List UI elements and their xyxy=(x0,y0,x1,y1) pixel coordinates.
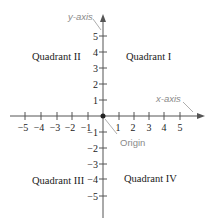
x-tick-label: 5 xyxy=(178,122,183,133)
y-tick-label: −4 xyxy=(87,174,98,185)
x-tick-label: 2 xyxy=(131,122,136,133)
quadrant-i-label: Quadrant I xyxy=(126,51,172,62)
quadrant-iii-label: Quadrant III xyxy=(32,175,85,186)
origin-label: Origin xyxy=(120,137,145,148)
quadrant-ii-label: Quadrant II xyxy=(32,51,81,62)
y-tick-label: −1 xyxy=(87,127,98,138)
x-tick-label: −2 xyxy=(65,122,76,133)
y-tick-label: 4 xyxy=(93,47,98,58)
coordinate-plane: −5 −4 −3 −2 −1 1 2 3 4 5 5 4 3 2 1 −1 −2… xyxy=(0,0,213,222)
x-tick-label: −4 xyxy=(34,122,45,133)
y-tick-label: −2 xyxy=(87,143,98,154)
quadrant-iv-label: Quadrant IV xyxy=(124,173,177,184)
y-axis-arrow-icon xyxy=(100,14,106,22)
x-tick-label: −3 xyxy=(50,122,61,133)
origin-point xyxy=(101,114,106,119)
y-tick-label: −5 xyxy=(87,191,98,202)
y-tick-label: −3 xyxy=(87,159,98,170)
x-axis-leader-line xyxy=(183,102,193,112)
x-tick-label: −5 xyxy=(18,122,29,133)
x-tick-label: 1 xyxy=(116,122,121,133)
y-tick-label: 1 xyxy=(93,95,98,106)
y-axis-leader-line xyxy=(93,19,101,30)
x-axis-arrow-icon xyxy=(197,113,205,119)
x-axis-label: x-axis xyxy=(155,93,181,104)
x-tick-label: 3 xyxy=(147,122,152,133)
x-tick-label: 4 xyxy=(162,122,167,133)
y-tick-label: 2 xyxy=(93,79,98,90)
y-axis-label: y-axis xyxy=(67,11,93,22)
y-tick-label: 5 xyxy=(93,31,98,42)
y-tick-label: 3 xyxy=(93,63,98,74)
